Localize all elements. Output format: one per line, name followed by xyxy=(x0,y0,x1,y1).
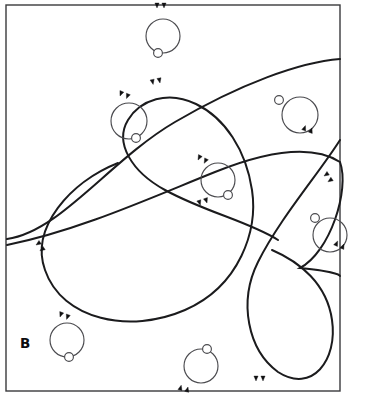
figure-canvas: B xyxy=(0,0,365,396)
loop-upper-left-bead xyxy=(132,134,141,143)
loop-center-bead xyxy=(224,191,233,200)
panel-letter-label: B xyxy=(20,335,30,351)
figure-panel-b: B xyxy=(0,0,365,396)
loop-bottom-center-bead xyxy=(203,345,212,354)
loop-upper-right-bead xyxy=(275,96,284,105)
loop-top-center-bead xyxy=(154,49,163,58)
loop-right-middle-bead xyxy=(311,214,320,223)
loop-bottom-left-bead xyxy=(65,353,74,362)
panel-border xyxy=(6,5,340,391)
